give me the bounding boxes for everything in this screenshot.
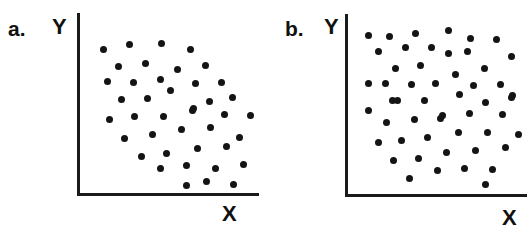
scatter-point: [138, 153, 145, 160]
scatter-point: [484, 129, 491, 136]
scatter-point: [411, 116, 418, 123]
scatter-point: [178, 126, 185, 133]
scatter-point: [194, 145, 201, 152]
scatter-point: [394, 97, 401, 104]
scatter-point: [497, 81, 504, 88]
panel-a-x-axis-line: [77, 193, 259, 196]
scatter-point: [236, 134, 243, 141]
scatter-point: [386, 33, 393, 40]
scatter-point: [149, 131, 156, 138]
scatter-point: [445, 27, 452, 34]
scatter-point: [100, 46, 107, 53]
scatter-point: [456, 91, 463, 98]
scatter-point: [365, 107, 372, 114]
scatter-point: [144, 95, 151, 102]
scatter-point: [470, 82, 477, 89]
scatter-point: [482, 99, 489, 106]
scatter-point: [167, 87, 174, 94]
scatter-point: [428, 44, 435, 51]
scatter-point: [212, 165, 219, 172]
scatter-point: [131, 113, 138, 120]
scatter-point: [415, 155, 422, 162]
scatter-point: [434, 167, 441, 174]
scatter-point: [461, 165, 468, 172]
scatter-point: [398, 137, 405, 144]
panel-a-y-axis-line: [77, 13, 80, 196]
panel-b-y-axis-label: Y: [324, 16, 339, 38]
scatter-point: [218, 79, 225, 86]
scatter-point: [223, 143, 230, 150]
scatter-point: [221, 111, 228, 118]
scatter-point: [424, 134, 431, 141]
scatterplot-figure: a. Y X b. Y X: [0, 0, 527, 249]
scatter-point: [230, 181, 237, 188]
scatter-point: [482, 181, 489, 188]
scatter-point: [157, 76, 164, 83]
scatter-point: [493, 36, 500, 43]
scatter-point: [240, 161, 247, 168]
scatter-point: [390, 157, 397, 164]
scatter-point: [439, 112, 446, 119]
scatter-point: [412, 30, 419, 37]
scatter-point: [472, 147, 479, 154]
scatter-point: [402, 44, 409, 51]
panel-b-label: b.: [285, 18, 304, 39]
scatter-point: [481, 65, 488, 72]
scatter-point: [408, 81, 415, 88]
scatter-point: [189, 107, 196, 114]
scatter-point: [417, 62, 424, 69]
scatter-point: [432, 80, 439, 87]
scatter-point: [203, 178, 210, 185]
scatter-point: [160, 113, 167, 120]
scatter-point: [115, 63, 122, 70]
scatter-point: [183, 182, 190, 189]
scatter-point: [157, 165, 164, 172]
scatter-point: [499, 111, 506, 118]
scatter-point: [467, 35, 474, 42]
scatter-point: [126, 41, 133, 48]
scatter-point: [187, 46, 194, 53]
scatter-point: [121, 135, 128, 142]
scatter-point: [515, 131, 522, 138]
scatter-point: [489, 166, 496, 173]
scatter-point: [106, 116, 113, 123]
scatter-point: [192, 80, 199, 87]
scatter-point: [174, 66, 181, 73]
scatter-point: [365, 80, 372, 87]
scatter-point: [104, 78, 111, 85]
scatter-point: [247, 112, 254, 119]
scatter-point: [392, 65, 399, 72]
scatter-point: [202, 62, 209, 69]
scatter-point: [383, 119, 390, 126]
panel-b-y-axis-line: [345, 14, 348, 197]
scatter-point: [421, 97, 428, 104]
scatter-point: [466, 110, 473, 117]
scatter-point: [183, 162, 190, 169]
scatter-point: [365, 32, 372, 39]
scatter-point: [163, 150, 170, 157]
panel-a-label: a.: [8, 18, 26, 39]
scatter-point: [375, 48, 382, 55]
panel-a-y-axis-label: Y: [52, 16, 67, 38]
scatter-point: [455, 129, 462, 136]
scatter-point: [508, 94, 515, 101]
scatter-point: [375, 139, 382, 146]
scatter-point: [502, 144, 509, 151]
panel-b-x-axis-label: X: [502, 207, 517, 229]
panel-a-x-axis-label: X: [222, 203, 237, 225]
scatter-point: [142, 60, 149, 67]
scatter-point: [206, 98, 213, 105]
scatter-point: [229, 94, 236, 101]
scatter-point: [452, 71, 459, 78]
scatter-point: [130, 79, 137, 86]
scatter-point: [207, 124, 214, 131]
panel-b-x-axis-line: [345, 194, 527, 197]
scatter-point: [443, 149, 450, 156]
scatter-point: [382, 80, 389, 87]
scatter-point: [508, 53, 515, 60]
scatter-point: [406, 175, 413, 182]
scatter-point: [158, 40, 165, 47]
scatter-point: [118, 96, 125, 103]
scatter-point: [464, 48, 471, 55]
scatter-point: [445, 50, 452, 57]
